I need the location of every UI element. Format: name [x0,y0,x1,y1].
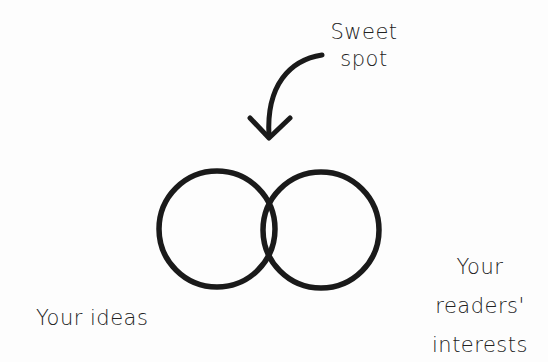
readers-interests-line-2: readers' [412,287,548,326]
sweet-spot-label: Sweet spot [318,19,410,73]
readers-interests-label: Your readers' interests [412,248,548,362]
arrow-icon [250,55,322,138]
sweet-spot-line-1: Sweet [318,19,410,46]
circle-readers-interests [263,172,379,288]
circle-your-ideas [159,171,275,287]
your-ideas-line-1: Your ideas [36,305,148,332]
your-ideas-label: Your ideas [36,305,148,332]
sweet-spot-line-2: spot [318,46,410,73]
readers-interests-line-3: interests [412,326,548,362]
readers-interests-line-1: Your [412,248,548,287]
